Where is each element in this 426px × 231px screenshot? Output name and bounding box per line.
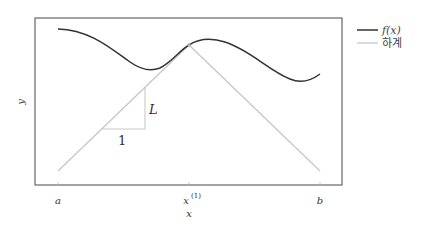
diagram: L 1 a x (1) b x y f(x) 하계 — [0, 0, 426, 231]
plot-frame — [35, 18, 342, 185]
tick-label-x1: x — [183, 195, 189, 206]
legend-label-bound: 하계 — [382, 36, 402, 50]
y-axis-label: y — [15, 99, 26, 106]
tick-label-b: b — [317, 195, 323, 206]
legend: f(x) 하계 — [357, 24, 402, 50]
legend-label-fx: f(x) — [381, 24, 401, 37]
label-L: L — [148, 102, 158, 117]
tick-label-a: a — [55, 195, 61, 206]
tick-label-x1-sup: (1) — [191, 192, 201, 200]
x-axis-label: x — [186, 208, 192, 219]
label-one: 1 — [118, 133, 126, 148]
f-curve — [58, 29, 320, 81]
lower-bound-line — [58, 45, 320, 171]
contact-point — [187, 43, 191, 47]
